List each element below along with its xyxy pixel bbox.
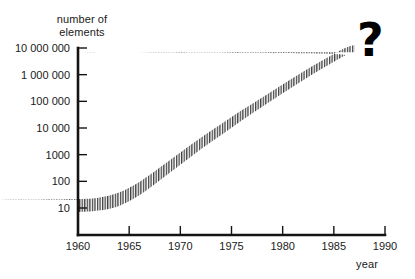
y-tick-label: 100 [52,176,70,187]
x-tick-label: 1960 [66,241,90,252]
y-tick-label: 1000 [46,149,70,160]
x-tick-label: 1980 [270,241,294,252]
y-tick-label: 10 [58,203,70,214]
x-tick-label: 1985 [322,241,346,252]
x-tick-label: 1990 [373,241,397,252]
axis-lines [78,48,385,235]
x-tick-label: 1975 [219,241,243,252]
y-axis-ticks [78,48,87,208]
x-tick-label: 1965 [117,241,141,252]
y-axis-tick-labels: 10 000 0001 000 000100 00010 00010001001… [0,0,70,279]
x-axis-ticks [78,226,385,235]
y-tick-label: 10 000 [36,123,70,134]
x-tick-label: 1970 [168,241,192,252]
y-tick-label: 1 000 000 [21,69,70,80]
y-tick-label: 100 000 [30,96,70,107]
question-mark-annotation: ? [357,17,384,63]
x-axis-title: year [344,258,390,271]
y-tick-label: 10 000 000 [15,43,70,54]
chart-figure: number of elements 10 000 0001 000 00010… [0,0,415,279]
